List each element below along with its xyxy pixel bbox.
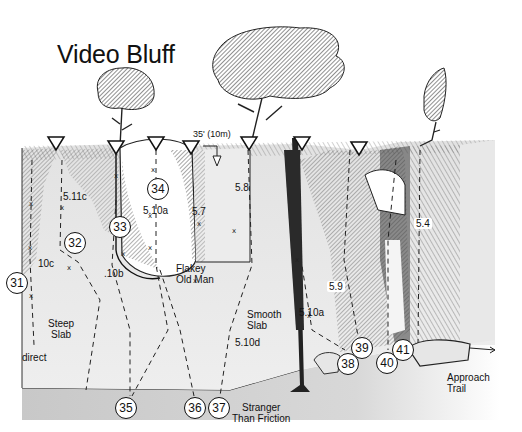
route-37-marker: 37 — [208, 397, 230, 419]
feature-stranger-than-friction: Stranger Than Friction — [232, 402, 290, 424]
feature-direct: direct — [22, 352, 46, 363]
route-32-marker: 32 — [64, 232, 86, 254]
svg-text:x: x — [67, 264, 71, 272]
grade-label: 5.7 — [192, 206, 206, 217]
route-36-marker: 36 — [184, 397, 206, 419]
grade-label: 10c — [38, 258, 54, 269]
scale-label: 35' (10m) — [193, 129, 231, 140]
grade-label: .10b — [104, 268, 123, 279]
svg-text:x: x — [29, 200, 33, 208]
route-34-marker: 34 — [147, 178, 169, 200]
grade-label: 5.11c — [63, 191, 87, 202]
feature-smooth-slab: Smooth Slab — [247, 309, 281, 331]
grade-label: 5.9 — [327, 281, 345, 292]
svg-text:x: x — [121, 250, 125, 258]
svg-text:x: x — [151, 166, 155, 174]
route-31-marker: 31 — [6, 272, 28, 294]
feature-steep-slab: Steep Slab — [48, 318, 74, 340]
route-33-marker: 33 — [109, 216, 131, 238]
grade-label: 5.10a — [299, 307, 324, 318]
right-tree — [420, 68, 446, 146]
route-41-marker: 41 — [392, 339, 414, 361]
route-35-marker: 35 — [115, 397, 137, 419]
grade-label: 5.10d — [235, 337, 260, 348]
grade-label: 5.8 — [235, 182, 249, 193]
svg-text:x: x — [114, 172, 118, 180]
svg-text:x: x — [148, 244, 152, 252]
svg-text:x: x — [295, 256, 299, 264]
svg-text:x: x — [28, 244, 32, 252]
grade-label: 5.10a — [143, 205, 168, 216]
svg-text:x: x — [197, 220, 201, 228]
feature-approach-trail: Approach Trail — [447, 372, 490, 394]
cliff-topo-drawing: xxx xx xx xxx xxx xx — [0, 0, 522, 432]
grade-label: 5.4 — [414, 218, 432, 229]
svg-text:x: x — [29, 292, 33, 300]
svg-text:x: x — [232, 227, 236, 235]
feature-flakey-old-man: Flakey Old Man — [176, 263, 214, 285]
svg-text:x: x — [60, 204, 64, 212]
left-tree — [97, 68, 154, 146]
route-39-marker: 39 — [351, 337, 373, 359]
